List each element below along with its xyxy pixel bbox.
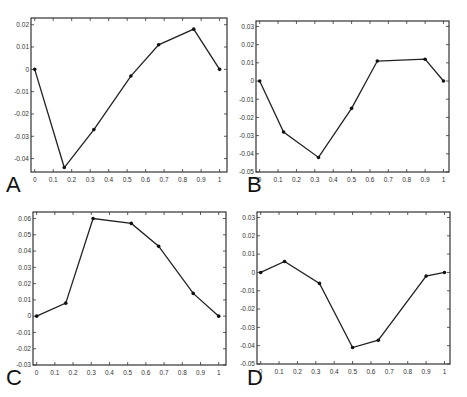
data-point-marker <box>283 260 287 264</box>
data-point-marker <box>424 274 428 278</box>
y-tick-label: -0.03 <box>240 324 255 331</box>
data-point-marker <box>318 282 322 286</box>
data-point-marker <box>377 338 381 342</box>
x-tick-label: 0.3 <box>311 368 320 375</box>
y-tick-label: 0.02 <box>242 232 255 239</box>
x-tick-label: 0.2 <box>293 368 302 375</box>
plot-area-d: 00.10.20.30.40.50.60.70.80.910.030.020.0… <box>0 0 467 397</box>
axes-frame <box>257 212 450 364</box>
x-tick-label: 0.6 <box>366 368 375 375</box>
y-tick-label: -0.01 <box>240 287 255 294</box>
panel-letter-d: D <box>247 367 263 389</box>
y-tick-label: 0 <box>251 269 255 276</box>
y-tick-label: 0.01 <box>242 250 255 257</box>
x-tick-label: 0.7 <box>385 368 394 375</box>
series-line <box>261 261 445 347</box>
x-tick-label: 0.5 <box>348 368 357 375</box>
y-tick-label: -0.04 <box>240 342 255 349</box>
x-tick-label: 0.9 <box>422 368 431 375</box>
x-tick-label: 0.1 <box>275 368 284 375</box>
data-point-marker <box>443 271 447 275</box>
data-point-marker <box>351 346 355 350</box>
x-tick-label: 0.4 <box>330 368 339 375</box>
x-tick-label: 1 <box>443 368 447 375</box>
y-tick-label: 0.03 <box>242 214 255 221</box>
data-point-marker <box>259 271 263 275</box>
y-tick-label: -0.02 <box>240 305 255 312</box>
x-tick-label: 0.8 <box>403 368 412 375</box>
